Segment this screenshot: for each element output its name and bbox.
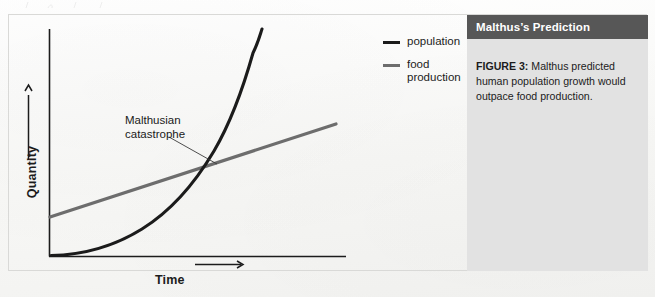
figure-caption: FIGURE 3: Malthus predicted human popula…: [476, 59, 636, 105]
series-population-curve: [51, 29, 262, 256]
chart-legend: population food production: [383, 35, 475, 94]
legend-item-food-production: food production: [383, 58, 475, 85]
sidebar-title: Malthus’s Prediction: [476, 21, 590, 33]
sidebar-panel: Malthus’s Prediction FIGURE 3: Malthus p…: [467, 15, 648, 271]
chart-area: Quantity Time Malthusian catastrophe pop…: [9, 15, 467, 271]
x-axis-label: Time: [155, 273, 185, 287]
x-axis-arrow: [195, 261, 243, 268]
figure-caption-label: FIGURE 3:: [476, 60, 528, 72]
legend-label-food-production: food production: [407, 58, 475, 85]
scan-artifact-marks: [22, 1, 142, 10]
legend-swatch-food-production-icon: [383, 64, 400, 67]
annotation-malthusian-catastrophe: Malthusian catastrophe: [125, 114, 221, 141]
sidebar-body: FIGURE 3: Malthus predicted human popula…: [467, 39, 648, 104]
annotation-leader-line: [169, 137, 217, 164]
legend-swatch-population-icon: [383, 41, 400, 44]
legend-item-population: population: [383, 35, 475, 49]
y-axis-label: Quantity: [25, 137, 39, 207]
sidebar-header: Malthus’s Prediction: [467, 15, 648, 39]
legend-label-population: population: [407, 35, 460, 49]
